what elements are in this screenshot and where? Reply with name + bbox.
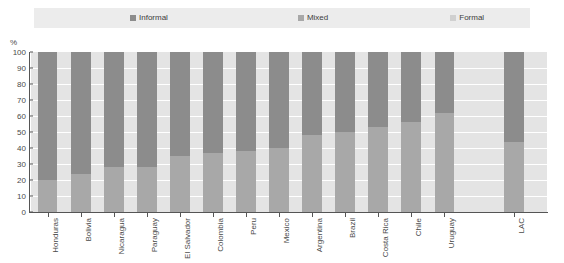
- x-tick-mark: [180, 213, 181, 217]
- bar-segment-informal[interactable]: [401, 52, 421, 122]
- x-tick-mark: [48, 213, 49, 217]
- legend-item-formal: Formal: [450, 14, 484, 22]
- bar-segment-mixed[interactable]: [236, 151, 256, 212]
- y-tick-label: 100: [13, 48, 26, 57]
- y-tick-mark: [30, 52, 33, 53]
- bar-segment-informal[interactable]: [137, 52, 157, 167]
- x-tick-mark: [147, 213, 148, 217]
- y-tick-mark: [30, 116, 33, 117]
- y-tick-mark: [30, 180, 33, 181]
- legend-label-informal: Informal: [139, 14, 168, 22]
- bar-segment-informal[interactable]: [269, 52, 289, 148]
- bar-stack[interactable]: [368, 52, 388, 212]
- x-tick-label: Mexico: [283, 218, 291, 243]
- x-tick-label: Colombia: [217, 218, 225, 252]
- bar-stack[interactable]: [302, 52, 322, 212]
- bar-segment-mixed[interactable]: [104, 167, 124, 212]
- bar-segment-mixed[interactable]: [504, 142, 524, 212]
- chart-legend: Informal Mixed Formal: [34, 8, 530, 28]
- bar-segment-mixed[interactable]: [71, 174, 91, 212]
- chart-plot-area: 0102030405060708090100: [0, 50, 564, 215]
- legend-swatch-informal: [130, 15, 136, 21]
- bar-stack[interactable]: [38, 52, 58, 212]
- bar-segment-informal[interactable]: [38, 52, 58, 180]
- y-tick-label: 90: [17, 64, 26, 73]
- bar-segment-informal[interactable]: [368, 52, 388, 127]
- x-tick-label: Uruguay: [448, 218, 456, 248]
- bar-segment-informal[interactable]: [71, 52, 91, 174]
- y-tick-mark: [30, 84, 33, 85]
- x-tick-label: Brazil: [349, 218, 357, 238]
- x-tick-label: Nicaragua: [118, 218, 126, 254]
- y-tick-label: 20: [17, 176, 26, 185]
- bar-segment-mixed[interactable]: [203, 153, 223, 212]
- y-tick-mark: [30, 68, 33, 69]
- bar-segment-informal[interactable]: [236, 52, 256, 151]
- bar-segment-mixed[interactable]: [170, 156, 190, 212]
- y-tick-label: 30: [17, 160, 26, 169]
- bar-segment-mixed[interactable]: [302, 135, 322, 212]
- x-tick-mark: [411, 213, 412, 217]
- bar-group: [31, 52, 547, 212]
- x-tick-mark: [345, 213, 346, 217]
- bar-segment-informal[interactable]: [504, 52, 524, 142]
- x-tick-label: Bolivia: [85, 218, 93, 242]
- y-tick-label: 60: [17, 112, 26, 121]
- x-tick-mark: [378, 213, 379, 217]
- bar-stack[interactable]: [504, 52, 524, 212]
- y-tick-label: 80: [17, 80, 26, 89]
- bar-segment-mixed[interactable]: [38, 180, 58, 212]
- x-tick-label: Costa Rica: [382, 218, 390, 257]
- bar-stack[interactable]: [335, 52, 355, 212]
- legend-swatch-formal: [450, 15, 456, 21]
- bar-segment-informal[interactable]: [170, 52, 190, 156]
- y-tick-mark: [30, 100, 33, 101]
- bar-segment-mixed[interactable]: [137, 167, 157, 212]
- bar-segment-mixed[interactable]: [269, 148, 289, 212]
- bar-stack[interactable]: [137, 52, 157, 212]
- bar-segment-mixed[interactable]: [401, 122, 421, 212]
- y-tick-mark: [30, 148, 33, 149]
- legend-item-informal: Informal: [130, 14, 168, 22]
- bar-segment-informal[interactable]: [435, 52, 455, 113]
- x-tick-label: Honduras: [52, 218, 60, 253]
- y-tick-mark: [30, 196, 33, 197]
- x-tick-mark: [279, 213, 280, 217]
- bar-segment-mixed[interactable]: [335, 132, 355, 212]
- y-tick-mark: [30, 164, 33, 165]
- bar-segment-informal[interactable]: [104, 52, 124, 167]
- x-tick-label: Peru: [250, 218, 258, 235]
- y-tick-label: 40: [17, 144, 26, 153]
- x-tick-mark: [213, 213, 214, 217]
- bar-segment-informal[interactable]: [302, 52, 322, 135]
- x-tick-mark: [444, 213, 445, 217]
- x-tick-mark: [312, 213, 313, 217]
- x-axis-labels: HondurasBoliviaNicaraguaParaguayEl Salva…: [31, 218, 547, 263]
- x-tick-mark: [246, 213, 247, 217]
- bar-stack[interactable]: [401, 52, 421, 212]
- y-tick-mark: [30, 212, 33, 213]
- bar-stack[interactable]: [203, 52, 223, 212]
- legend-swatch-mixed: [298, 15, 304, 21]
- y-tick-label: 0: [22, 208, 26, 217]
- bar-stack[interactable]: [104, 52, 124, 212]
- bar-segment-informal[interactable]: [203, 52, 223, 153]
- bar-segment-informal[interactable]: [335, 52, 355, 132]
- y-tick-label: 70: [17, 96, 26, 105]
- bar-segment-mixed[interactable]: [435, 113, 455, 212]
- y-tick-label: 10: [17, 192, 26, 201]
- bar-stack[interactable]: [71, 52, 91, 212]
- bar-segment-mixed[interactable]: [368, 127, 388, 212]
- x-tick-mark: [81, 213, 82, 217]
- x-axis-ticks: [31, 213, 547, 217]
- x-tick-label: Chile: [415, 218, 423, 236]
- y-axis-unit-label: %: [10, 38, 17, 47]
- x-tick-mark: [114, 213, 115, 217]
- bar-stack[interactable]: [170, 52, 190, 212]
- bar-stack[interactable]: [236, 52, 256, 212]
- y-tick-label: 50: [17, 128, 26, 137]
- legend-label-mixed: Mixed: [307, 14, 328, 22]
- y-axis: 0102030405060708090100: [0, 50, 30, 212]
- bar-stack[interactable]: [269, 52, 289, 212]
- bar-stack[interactable]: [435, 52, 455, 212]
